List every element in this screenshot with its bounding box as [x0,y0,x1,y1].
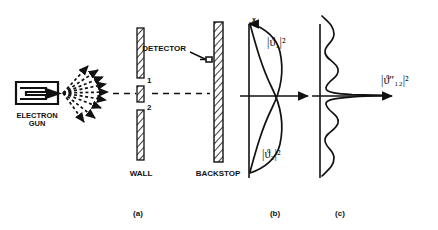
electron-gun-label-line2: GUN [29,119,46,128]
wall-segment-middle [137,86,144,102]
panel-label-a: (a) [133,209,143,218]
wall-segment-top [137,28,144,78]
curve-label-phi12: |ϑ″₁₂|² [381,73,409,87]
double-slit-figure: ELECTRON GUN 1 2 WALL BACKSTOP [0,0,438,230]
physics-diagram: ELECTRON GUN 1 2 WALL BACKSTOP [0,0,438,230]
backstop-label: BACKSTOP [196,169,241,178]
wall-segment-bottom [137,110,144,160]
panel-label-c: (c) [335,209,345,218]
panel-label-b: (b) [270,209,281,218]
slit-label-2: 2 [147,103,152,112]
slit-label-1: 1 [147,76,152,85]
panel-b-axis-label-x: x [252,16,256,23]
curve-label-phi1: |ϑ₁|² [267,35,286,49]
wall-label: WALL [130,169,153,178]
detector-label: DETECTOR [142,44,186,53]
backstop-plate [214,22,223,162]
curve-label-phi2: |ϑ₂|² [262,147,281,161]
